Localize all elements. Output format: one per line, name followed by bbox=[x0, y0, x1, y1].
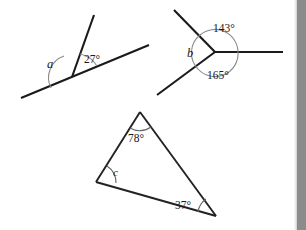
angle-37-label: 37° bbox=[175, 199, 192, 211]
figure-straight-line-angles: a 27° bbox=[21, 15, 149, 98]
angle-27-label: 27° bbox=[84, 53, 101, 65]
vertical-scrollbar[interactable] bbox=[296, 0, 306, 230]
angle-165-label: 165° bbox=[207, 69, 229, 81]
figure-angles-at-a-point: 143° 165° b bbox=[157, 10, 283, 95]
angle-b-label: b bbox=[187, 46, 193, 60]
worksheet-page: a 27° 143° 165° b bbox=[0, 0, 306, 230]
upward-ray bbox=[72, 15, 94, 77]
scrollbar-thumb[interactable] bbox=[297, 0, 306, 230]
angle-a-label: a bbox=[47, 57, 53, 71]
upper-left-ray bbox=[174, 10, 215, 52]
triangle-side-left bbox=[96, 112, 140, 182]
figure-triangle-angles: 78° c 37° bbox=[96, 112, 216, 216]
angle-78-arc bbox=[130, 127, 151, 131]
angle-c-label: c bbox=[113, 166, 118, 178]
figures-canvas-area: a 27° 143° 165° b bbox=[0, 0, 296, 230]
angle-78-label: 78° bbox=[128, 132, 145, 144]
geometry-figures-svg: a 27° 143° 165° b bbox=[0, 0, 296, 230]
angle-143-label: 143° bbox=[213, 22, 235, 34]
